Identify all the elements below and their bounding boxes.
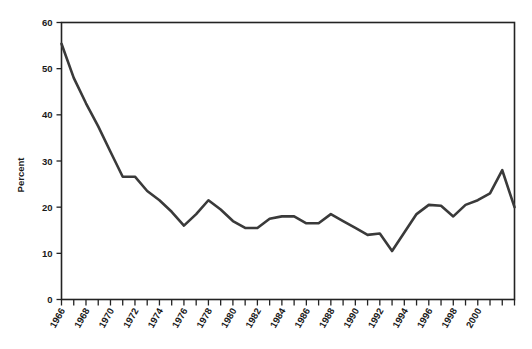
chart-figure: 0102030405060 19661968197019721974197619… — [0, 0, 532, 349]
x-tick-label: 1972 — [121, 306, 141, 330]
x-tick-label: 1990 — [341, 306, 361, 330]
y-axis-title: Percent — [15, 157, 26, 193]
x-tick-label: 1982 — [243, 306, 263, 330]
x-tick-label: 1998 — [439, 306, 459, 330]
y-tick-label: 10 — [42, 248, 53, 259]
x-tick-label: 1968 — [72, 306, 92, 330]
x-tick-label: 1976 — [170, 306, 190, 330]
x-tick-label: 1970 — [96, 306, 116, 330]
x-tick-label: 1996 — [414, 306, 434, 330]
x-tick-label: 1992 — [365, 306, 385, 330]
x-tick-label: 1986 — [292, 306, 312, 330]
data-series-line — [62, 44, 515, 251]
y-tick-label: 20 — [42, 202, 53, 213]
y-tick-label: 30 — [42, 156, 53, 167]
y-tick-label: 0 — [47, 294, 52, 305]
x-tick-label: 2000 — [463, 306, 483, 330]
x-tick-label: 1994 — [390, 305, 410, 329]
x-tick-label: 1980 — [219, 306, 239, 330]
plot-frame — [62, 23, 515, 300]
y-tick-label: 50 — [42, 63, 53, 74]
x-tick-label: 1984 — [268, 305, 288, 329]
x-axis-ticks — [62, 300, 515, 306]
y-tick-label: 60 — [42, 17, 53, 28]
x-tick-label: 1978 — [194, 306, 214, 330]
x-tick-label: 1974 — [145, 305, 165, 329]
x-axis-tick-labels: 1966196819701972197419761978198019821984… — [47, 305, 483, 329]
line-chart: 0102030405060 19661968197019721974197619… — [0, 0, 532, 349]
x-tick-label: 1988 — [316, 306, 336, 330]
y-axis-tick-labels: 0102030405060 — [42, 17, 53, 305]
y-tick-label: 40 — [42, 109, 53, 120]
x-tick-label: 1966 — [47, 306, 67, 330]
